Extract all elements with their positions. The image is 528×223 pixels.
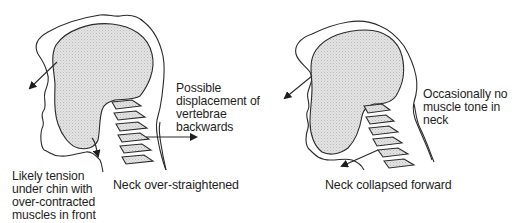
left-vertebrae: [112, 100, 153, 164]
displacement-annotation: Possible displacement of vertebrae backw…: [176, 82, 260, 134]
right-collapse-arrow: [342, 150, 378, 166]
left-panel-caption: Neck over-straightened: [113, 178, 239, 192]
left-forward-arrow: [30, 62, 57, 88]
right-head-neck-illustration: [285, 21, 434, 170]
right-panel-caption: Neck collapsed forward: [325, 178, 452, 192]
right-skull-shape: [310, 30, 404, 154]
chin-tension-annotation: Likely tension under chin with over-cont…: [12, 170, 96, 223]
right-vertebrae: [364, 104, 414, 168]
left-skull-shape: [53, 24, 153, 149]
muscle-tone-annotation: Occasionally no muscle tone in neck: [423, 88, 508, 127]
left-neck-back-line: [159, 122, 166, 170]
left-head-neck-illustration: [30, 15, 196, 172]
